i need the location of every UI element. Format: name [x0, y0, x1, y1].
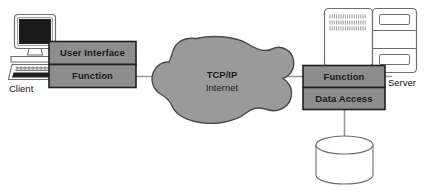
database-cylinder-icon [316, 136, 373, 184]
client-tier-label-user-interface: User Interface [49, 48, 136, 58]
cloud-label-line2: Internet [180, 82, 264, 94]
diagram-canvas: User Interface Function Client TCP/IP In… [0, 0, 439, 192]
cloud-label-line1: TCP/IP [180, 69, 264, 81]
client-tier-label-function: Function [49, 71, 136, 81]
server-label: Server [388, 78, 416, 88]
client-label: Client [9, 84, 33, 94]
server-tier-label-data-access: Data Access [303, 94, 385, 104]
server-tower-icon [325, 9, 417, 73]
server-tier-label-function: Function [303, 72, 385, 82]
